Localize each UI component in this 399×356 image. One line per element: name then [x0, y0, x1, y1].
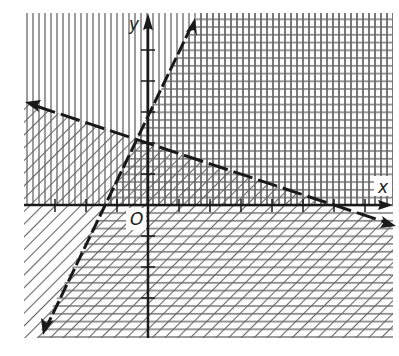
- y-axis-label: y: [128, 14, 140, 34]
- inequality-graph: O x y: [0, 0, 399, 356]
- shaded-regions: [24, 13, 393, 338]
- x-axis-label: x: [377, 177, 389, 197]
- origin-label: O: [130, 209, 143, 229]
